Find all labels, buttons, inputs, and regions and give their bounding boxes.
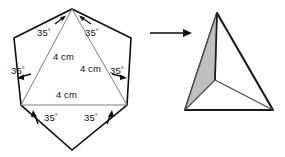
transform-arrow (150, 29, 192, 37)
length-label-right-side: 4 cm (80, 64, 101, 74)
figure-canvas (0, 0, 285, 157)
angle-label-top-right: 35° (85, 28, 99, 38)
geometry-figure: 35° 35° 35° 35° 35° 35° 4 cm 4 cm 4 cm (0, 0, 285, 157)
angle-label-bottom-right: 35° (84, 113, 98, 123)
angle-label-top-left: 35° (37, 28, 51, 38)
angle-label-mid-right: 35° (110, 66, 124, 76)
length-label-bottom-side: 4 cm (56, 90, 77, 100)
angle-label-mid-left: 35° (11, 66, 25, 76)
length-label-left-side: 4 cm (53, 52, 74, 62)
angle-label-bottom-left: 35° (44, 113, 58, 123)
